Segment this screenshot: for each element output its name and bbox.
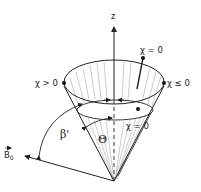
label-chi-right: χ ≤ 0 (167, 78, 190, 88)
point-top (141, 56, 145, 60)
b0-label: B0 (4, 150, 14, 161)
inner-ellipse (77, 100, 153, 120)
label-chi-left: χ > 0 (35, 78, 58, 88)
point-inner (136, 107, 140, 111)
beta-angle-arc: β' (39, 104, 82, 156)
cone-diagram: z χ = 0 χ > 0 χ ≤ 0 χ = 0 B0 β' Θ (0, 0, 201, 192)
b0-vector: B0 (4, 148, 114, 181)
theta-label: Θ (98, 133, 107, 146)
z-axis: z (111, 12, 115, 181)
label-chi-top: χ = 0 (140, 45, 163, 55)
point-right (162, 81, 166, 85)
z-axis-label: z (111, 12, 115, 21)
beta-label: β' (60, 128, 69, 141)
point-left (62, 81, 66, 85)
label-chi-inner: χ = 0 (126, 121, 149, 131)
